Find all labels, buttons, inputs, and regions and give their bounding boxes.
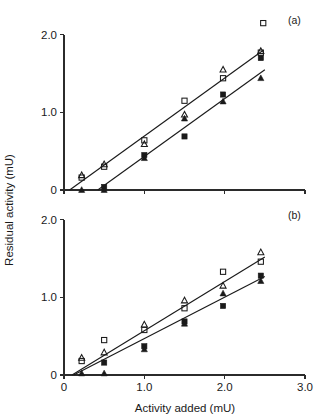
y-axis-title: Residual activity (mU)	[3, 154, 15, 266]
x-tick-label: 2.0	[217, 381, 233, 393]
data-point-filled-square	[220, 303, 225, 308]
y-tick-label: 0	[51, 369, 57, 381]
figure-container: Residual activity (mU) Activity added (m…	[0, 0, 327, 419]
data-point-filled-square	[220, 92, 225, 97]
x-axis-title: Activity added (mU)	[135, 402, 236, 414]
scatter-plot-figure: Residual activity (mU) Activity added (m…	[0, 0, 327, 419]
y-tick-label: 2.0	[41, 29, 57, 41]
x-tick-label: 3.0	[297, 381, 313, 393]
data-point-filled-square	[182, 134, 187, 139]
data-point-filled-square	[258, 55, 263, 60]
y-tick-label: 1.0	[41, 291, 57, 303]
panel-a-label: (a)	[288, 14, 301, 26]
y-tick-label: 2.0	[41, 214, 57, 226]
x-tick-label: 0	[61, 381, 67, 393]
y-tick-label: 0	[51, 184, 57, 196]
panel-b-label: (b)	[288, 209, 301, 221]
data-point-filled-square	[102, 360, 107, 365]
x-tick-label: 1.0	[136, 381, 152, 393]
y-tick-label: 1.0	[41, 106, 57, 118]
figure-background	[0, 0, 327, 419]
